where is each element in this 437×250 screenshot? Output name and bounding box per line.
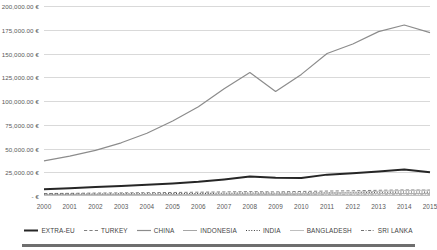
legend-label: INDONESIA	[200, 227, 237, 234]
x-tick-label: 2003	[114, 203, 129, 210]
line-chart: - €25,000.00 €50,000.00 €75,000.00 €100,…	[0, 0, 437, 250]
legend-item[interactable]: EXTRA-EU	[24, 227, 75, 234]
x-tick-label: 2007	[217, 203, 232, 210]
legend-item[interactable]: TURKEY	[84, 227, 128, 234]
legend-swatch-icon	[24, 227, 38, 234]
x-tick-label: 2010	[294, 203, 309, 210]
legend-swatch-icon	[137, 227, 151, 234]
legend-swatch-icon	[290, 227, 304, 234]
legend-item[interactable]: INDIA	[246, 227, 281, 234]
y-tick-label: - €	[31, 193, 39, 200]
legend-label: CHINA	[154, 227, 175, 234]
series-line	[44, 25, 430, 161]
x-tick-label: 2015	[423, 203, 437, 210]
y-tick-label: 125,000.00 €	[2, 74, 39, 81]
y-tick-label: 150,000.00 €	[2, 50, 39, 57]
y-tick-label: 75,000.00 €	[5, 121, 39, 128]
x-tick-label: 2006	[191, 203, 206, 210]
legend-swatch-icon	[246, 227, 260, 234]
y-tick-label: 200,000.00 €	[2, 3, 39, 10]
x-tick-label: 2008	[243, 203, 258, 210]
x-tick-label: 2004	[140, 203, 155, 210]
x-tick-label: 2013	[371, 203, 386, 210]
legend-label: INDIA	[263, 227, 281, 234]
x-tick-label: 2014	[397, 203, 412, 210]
y-tick-label: 25,000.00 €	[5, 169, 39, 176]
legend-item[interactable]: INDONESIA	[183, 227, 237, 234]
y-tick-label: 175,000.00 €	[2, 26, 39, 33]
legend-item[interactable]: BANGLADESH	[290, 227, 352, 234]
x-axis-labels: 2000200120022003200420052006200720082009…	[44, 200, 430, 214]
chart-legend: EXTRA-EUTURKEYCHINAINDONESIAINDIABANGLAD…	[0, 222, 437, 238]
y-tick-label: 100,000.00 €	[2, 98, 39, 105]
series-line	[44, 170, 430, 190]
x-tick-label: 2005	[165, 203, 180, 210]
x-tick-label: 2000	[37, 203, 52, 210]
series-layer	[44, 6, 430, 196]
legend-swatch-icon	[84, 227, 98, 234]
x-axis-line	[44, 195, 430, 196]
x-tick-label: 2002	[88, 203, 103, 210]
legend-label: BANGLADESH	[307, 227, 352, 234]
x-tick-label: 2012	[345, 203, 360, 210]
y-axis-labels: - €25,000.00 €50,000.00 €75,000.00 €100,…	[0, 0, 42, 196]
legend-label: TURKEY	[101, 227, 128, 234]
plot-area	[44, 6, 430, 196]
x-tick-label: 2009	[268, 203, 283, 210]
legend-swatch-icon	[361, 227, 375, 234]
bottom-divider	[22, 244, 415, 247]
x-tick-label: 2011	[320, 203, 334, 210]
legend-item[interactable]: SRI LANKA	[361, 227, 413, 234]
legend-label: EXTRA-EU	[41, 227, 75, 234]
y-tick-label: 50,000.00 €	[5, 145, 39, 152]
legend-label: SRI LANKA	[378, 227, 413, 234]
legend-item[interactable]: CHINA	[137, 227, 175, 234]
x-tick-label: 2001	[62, 203, 77, 210]
legend-swatch-icon	[183, 227, 197, 234]
